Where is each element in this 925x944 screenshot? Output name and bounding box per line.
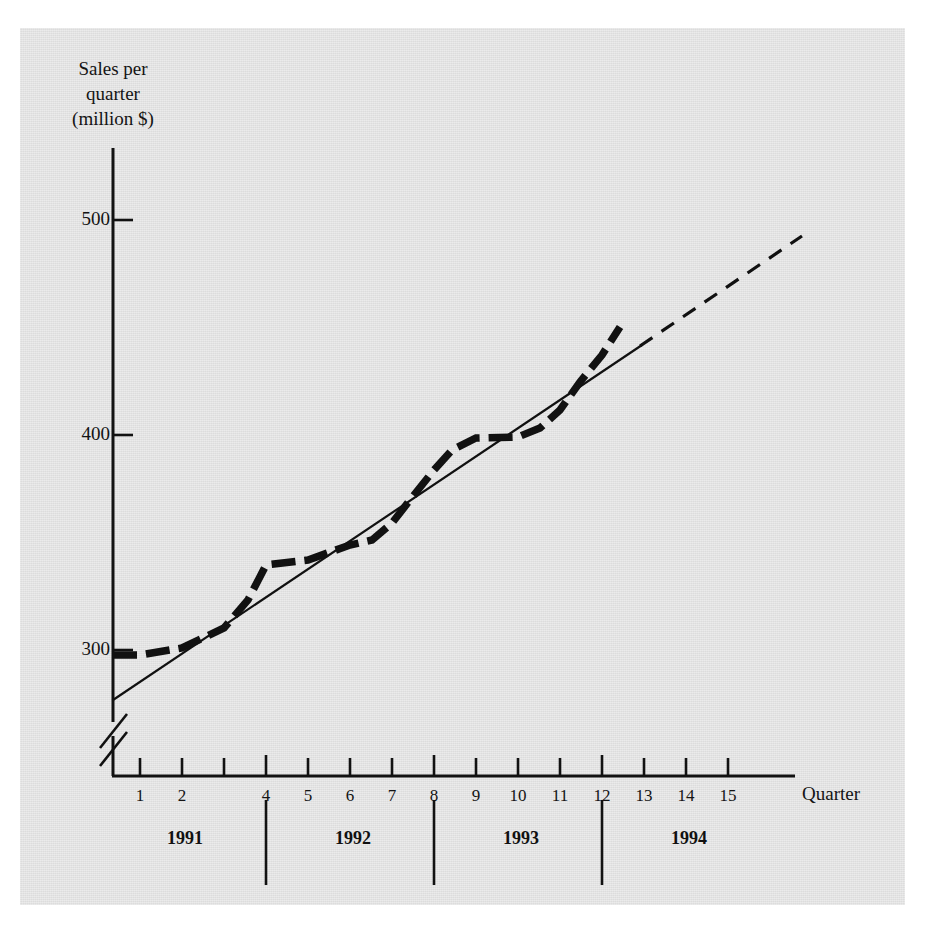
year-separators	[266, 800, 602, 885]
x-axis-ticks	[140, 755, 728, 776]
series-actual-sales	[113, 327, 620, 655]
trend-line-forecast	[640, 236, 802, 346]
figure-page: Sales per quarter (million $) 500 400 30…	[0, 0, 925, 944]
chart-plot-area	[0, 0, 925, 944]
